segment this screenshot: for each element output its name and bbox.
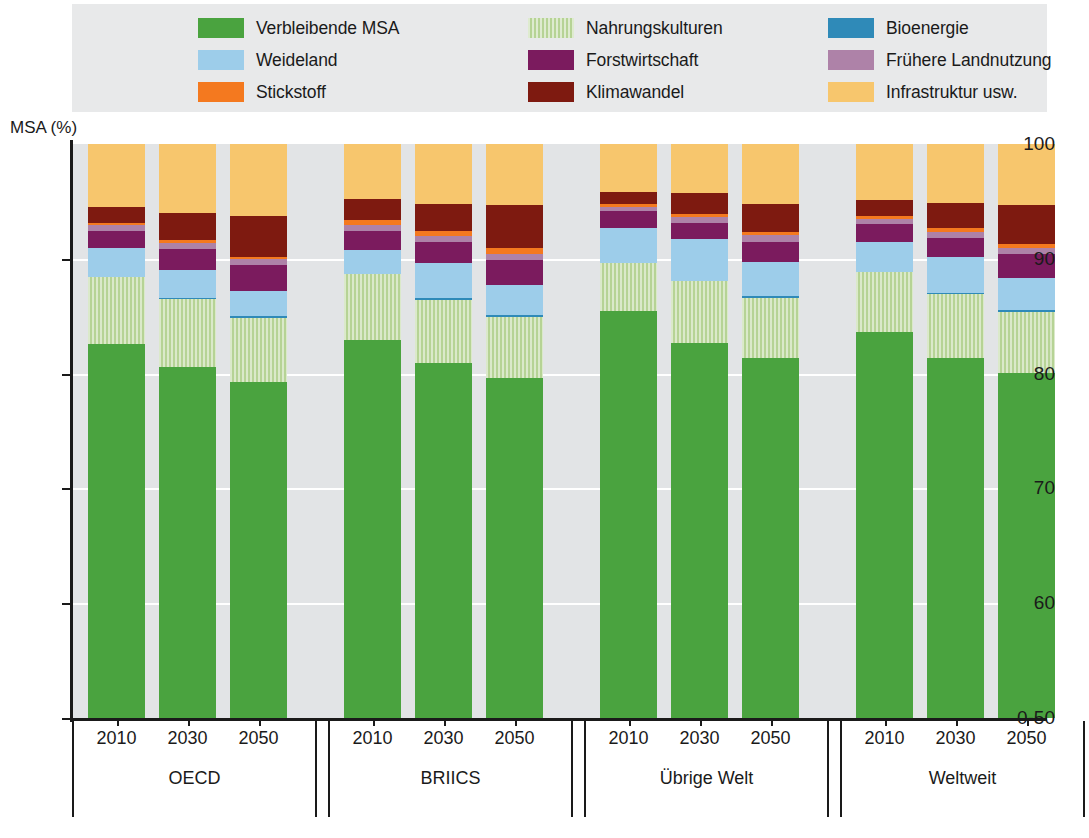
x-tick (956, 718, 958, 726)
x-tick (629, 718, 631, 726)
bar-briics-2030 (415, 144, 472, 718)
group-label-briics: BRIICS (321, 768, 581, 789)
segment-climate (230, 216, 287, 257)
x-label-2010: 2010 (845, 728, 925, 749)
segment-infrastructure (486, 144, 543, 205)
y-axis-line (70, 140, 73, 722)
segment-forestry (486, 260, 543, 285)
segment-food_crops (671, 281, 728, 343)
group-separator (840, 721, 842, 817)
bar-briics-2010 (344, 144, 401, 718)
segment-grazing (856, 242, 913, 272)
x-label-2030: 2030 (404, 728, 484, 749)
x-axis-line (70, 718, 1047, 721)
segment-climate (486, 205, 543, 248)
x-label-2010: 2010 (77, 728, 157, 749)
x-tick (117, 718, 119, 726)
segment-grazing (998, 278, 1055, 310)
segment-forestry (230, 265, 287, 291)
segment-grazing (486, 285, 543, 315)
group-separator (315, 721, 317, 817)
group-separator (827, 721, 829, 817)
segment-forestry (671, 223, 728, 240)
segment-grazing (230, 291, 287, 316)
group-label-oecd: OECD (65, 768, 325, 789)
x-tick (444, 718, 446, 726)
bar-übrige-welt-2030 (671, 144, 728, 718)
segment-food_crops (230, 318, 287, 381)
x-tick (700, 718, 702, 726)
segment-infrastructure (88, 144, 145, 207)
bar-oecd-2030 (159, 144, 216, 718)
group-separator (571, 721, 573, 817)
x-label-2030: 2030 (916, 728, 996, 749)
segment-food_crops (344, 274, 401, 340)
y-tick-label-80: 80 (997, 363, 1055, 385)
segment-grazing (159, 270, 216, 299)
x-tick (1027, 718, 1029, 726)
x-tick (885, 718, 887, 726)
segment-remaining_msa (600, 311, 657, 718)
x-tick (771, 718, 773, 726)
x-tick (259, 718, 261, 726)
segment-infrastructure (600, 144, 657, 192)
segment-climate (600, 192, 657, 204)
segment-food_crops (927, 294, 984, 358)
segment-climate (742, 204, 799, 232)
bar-weltweit-2050 (998, 144, 1055, 718)
segment-food_crops (159, 299, 216, 367)
y-tick-mark-60 (62, 603, 72, 605)
segment-remaining_msa (344, 340, 401, 718)
segment-forestry (344, 231, 401, 250)
segment-grazing (344, 250, 401, 275)
segment-remaining_msa (486, 378, 543, 718)
x-label-2010: 2010 (333, 728, 413, 749)
segment-remaining_msa (998, 373, 1055, 718)
segment-grazing (742, 262, 799, 295)
bar-oecd-2010 (88, 144, 145, 718)
segment-forestry (856, 224, 913, 242)
segment-climate (927, 203, 984, 228)
segment-grazing (671, 239, 728, 280)
segment-remaining_msa (671, 343, 728, 718)
segment-forestry (927, 238, 984, 257)
group-label-übrige-welt: Übrige Welt (577, 768, 837, 789)
group-separator (584, 721, 586, 817)
segment-remaining_msa (88, 344, 145, 718)
bar-oecd-2050 (230, 144, 287, 718)
y-tick-label-100: 100 (997, 133, 1055, 155)
y-tick-label-60: 60 (997, 592, 1055, 614)
segment-remaining_msa (415, 363, 472, 718)
x-label-2030: 2030 (660, 728, 740, 749)
x-label-2010: 2010 (589, 728, 669, 749)
y-tick-label-70: 70 (997, 477, 1055, 499)
segment-remaining_msa (230, 382, 287, 718)
segment-food_crops (856, 272, 913, 332)
x-label-2050: 2050 (987, 728, 1067, 749)
x-tick (515, 718, 517, 726)
y-tick-label-90: 90 (997, 248, 1055, 270)
segment-food_crops (600, 263, 657, 311)
segment-infrastructure (159, 144, 216, 213)
x-label-2030: 2030 (148, 728, 228, 749)
segment-climate (344, 199, 401, 220)
segment-food_crops (742, 298, 799, 358)
segment-climate (671, 193, 728, 214)
segment-food_crops (415, 300, 472, 363)
segment-grazing (600, 228, 657, 263)
segment-remaining_msa (927, 358, 984, 718)
x-label-2050: 2050 (219, 728, 299, 749)
segment-food_crops (88, 277, 145, 344)
segment-climate (856, 200, 913, 217)
segment-grazing (415, 263, 472, 298)
group-separator (72, 721, 74, 817)
y-tick-mark-90 (62, 259, 72, 261)
bar-übrige-welt-2010 (600, 144, 657, 718)
y-tick-mark-0-50 (62, 718, 72, 720)
segment-forestry (88, 231, 145, 249)
segment-grazing (927, 257, 984, 293)
segment-remaining_msa (159, 367, 216, 718)
segment-infrastructure (927, 144, 984, 203)
segment-forestry (159, 249, 216, 270)
bar-weltweit-2030 (927, 144, 984, 718)
